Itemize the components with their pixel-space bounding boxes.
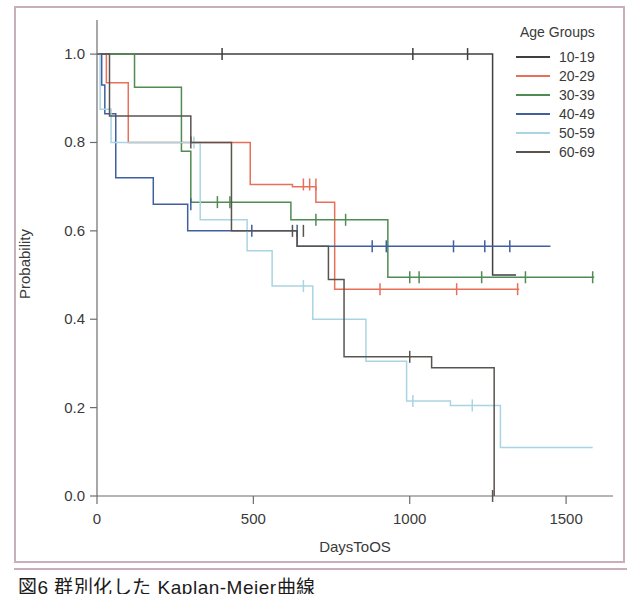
legend-swatch-icon	[516, 75, 550, 77]
legend-label: 60-69	[559, 144, 595, 160]
legend-rows: 10-1920-2930-3940-4950-5960-69	[516, 47, 628, 161]
survival-curve-40-49	[97, 54, 550, 246]
x-tick-label: 1000	[393, 510, 426, 527]
y-tick-label: 1.0	[64, 45, 85, 62]
legend-swatch-icon	[516, 151, 550, 153]
y-tick-label: 0.8	[64, 133, 85, 150]
legend-label: 40-49	[559, 106, 595, 122]
figure-caption: 図6 群別化した Kaplan-Meier曲線	[18, 572, 618, 594]
x-tick-label: 0	[93, 510, 101, 527]
survival-curve-60-69	[97, 54, 494, 496]
legend-item-10-19: 10-19	[516, 47, 628, 66]
figure-page: 0.00.20.40.60.81.0050010001500DaysToOSPr…	[0, 0, 639, 594]
x-tick-label: 500	[241, 510, 266, 527]
legend-swatch-icon	[516, 113, 550, 115]
legend-swatch-icon	[516, 132, 550, 134]
legend-title: Age Groups	[520, 24, 628, 40]
legend-item-40-49: 40-49	[516, 104, 628, 123]
y-tick-label: 0.4	[64, 310, 85, 327]
legend-label: 50-59	[559, 125, 595, 141]
y-axis-label: Probability	[16, 228, 33, 299]
legend-swatch-icon	[516, 56, 550, 58]
legend-swatch-icon	[516, 94, 550, 96]
y-tick-label: 0.0	[64, 487, 85, 504]
legend-item-20-29: 20-29	[516, 66, 628, 85]
x-axis-label: DaysToOS	[319, 538, 391, 555]
x-tick-label: 1500	[549, 510, 582, 527]
legend: Age Groups 10-1920-2930-3940-4950-5960-6…	[516, 24, 628, 161]
legend-label: 10-19	[559, 49, 595, 65]
legend-label: 20-29	[559, 68, 595, 84]
legend-label: 30-39	[559, 87, 595, 103]
legend-item-50-59: 50-59	[516, 123, 628, 142]
legend-item-30-39: 30-39	[516, 85, 628, 104]
legend-item-60-69: 60-69	[516, 142, 628, 161]
y-tick-label: 0.6	[64, 222, 85, 239]
survival-curve-20-29	[97, 54, 519, 289]
y-tick-label: 0.2	[64, 399, 85, 416]
